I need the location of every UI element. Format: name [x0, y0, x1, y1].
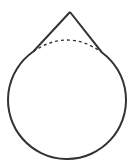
- figure-outline: [8, 12, 126, 159]
- drop-figure: [0, 0, 132, 163]
- diagram-canvas: [0, 0, 132, 163]
